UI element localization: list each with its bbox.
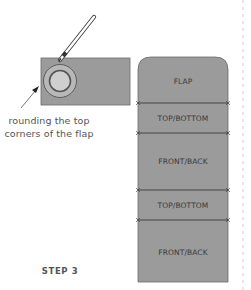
step-3-diagram xyxy=(0,0,251,290)
step-label: STEP 3 xyxy=(40,266,80,276)
section-label-front-back: FRONT/BACK xyxy=(138,157,228,166)
section-label-top-bottom: TOP/BOTTOM xyxy=(138,114,228,123)
circle-template-icon xyxy=(44,65,77,98)
section-label-flap: FLAP xyxy=(138,77,228,86)
callout-line-2: corners of the flap xyxy=(0,127,98,140)
callout-line-1: rounding the top xyxy=(0,114,98,127)
section-label-front-back: FRONT/BACK xyxy=(138,248,228,257)
pencil-icon xyxy=(59,17,94,61)
arrow-icon xyxy=(21,86,39,108)
section-label-top-bottom: TOP/BOTTOM xyxy=(138,201,228,210)
